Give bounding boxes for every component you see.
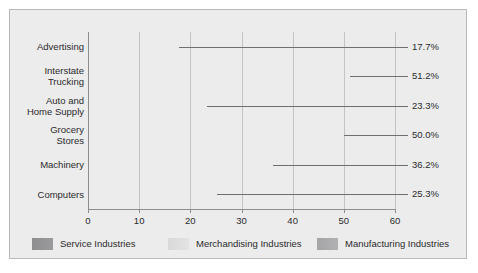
gridline <box>395 32 396 209</box>
x-axis-tick-label: 50 <box>329 215 359 226</box>
category-label-line: Trucking <box>12 76 84 87</box>
x-axis-tick <box>344 209 345 213</box>
bar <box>88 155 273 174</box>
legend-label: Service Industries <box>60 239 136 249</box>
legend-item-service[interactable]: Service Industries <box>32 236 136 252</box>
legend-swatch-icon <box>32 238 53 250</box>
x-axis-tick <box>395 209 396 213</box>
value-leader-line <box>344 135 408 136</box>
category-label-line: Grocery <box>12 124 84 135</box>
gridline <box>190 32 191 209</box>
category-label-line: Machinery <box>12 159 84 170</box>
x-axis-tick <box>293 209 294 213</box>
plot-area <box>88 32 395 209</box>
value-label: 36.2% <box>412 160 439 170</box>
bar <box>88 96 207 115</box>
legend-swatch-icon <box>317 238 338 250</box>
legend-label: Manufacturing Industries <box>345 239 449 249</box>
x-axis-tick-label: 0 <box>73 215 103 226</box>
category-label: Advertising <box>12 41 84 52</box>
category-label-line: Auto and <box>12 95 84 106</box>
category-label: InterstateTrucking <box>12 65 84 87</box>
category-label: Computers <box>12 189 84 200</box>
category-label-line: Computers <box>12 189 84 200</box>
legend-item-manuf[interactable]: Manufacturing Industries <box>317 236 449 252</box>
value-label: 17.7% <box>412 42 439 52</box>
x-axis-tick <box>242 209 243 213</box>
gridline <box>344 32 345 209</box>
legend-label: Merchandising Industries <box>196 239 302 249</box>
value-label: 50.0% <box>412 130 439 140</box>
bar <box>88 185 217 204</box>
legend-item-merch[interactable]: Merchandising Industries <box>168 236 302 252</box>
bar <box>88 37 179 56</box>
value-leader-line <box>179 47 408 48</box>
x-axis-tick-label: 40 <box>278 215 308 226</box>
value-leader-line <box>217 194 408 195</box>
bar <box>88 126 344 145</box>
value-label: 23.3% <box>412 101 439 111</box>
x-axis-tick <box>88 209 89 213</box>
chart-legend: Service IndustriesMerchandising Industri… <box>32 236 456 252</box>
category-label: Machinery <box>12 159 84 170</box>
y-axis-line <box>88 32 89 209</box>
x-axis-tick-label: 60 <box>380 215 410 226</box>
category-label-line: Home Supply <box>12 106 84 117</box>
value-label: 25.3% <box>412 189 439 199</box>
value-label: 51.2% <box>412 71 439 81</box>
bar <box>88 67 350 86</box>
category-label: Auto andHome Supply <box>12 95 84 117</box>
legend-swatch-icon <box>168 238 189 250</box>
category-label-line: Interstate <box>12 65 84 76</box>
category-label-line: Stores <box>12 135 84 146</box>
x-axis-tick <box>190 209 191 213</box>
value-leader-line <box>350 76 408 77</box>
x-axis-tick <box>139 209 140 213</box>
x-axis-tick-label: 10 <box>124 215 154 226</box>
gridline <box>139 32 140 209</box>
x-axis-tick-label: 30 <box>227 215 257 226</box>
x-axis-tick-label: 20 <box>175 215 205 226</box>
gridline <box>242 32 243 209</box>
category-axis-labels: AdvertisingInterstateTruckingAuto andHom… <box>10 32 84 209</box>
chart-figure: AdvertisingInterstateTruckingAuto andHom… <box>9 9 467 259</box>
value-leader-line <box>273 165 408 166</box>
value-leader-line <box>207 106 408 107</box>
gridline <box>293 32 294 209</box>
category-label-line: Advertising <box>12 41 84 52</box>
category-label: GroceryStores <box>12 124 84 146</box>
